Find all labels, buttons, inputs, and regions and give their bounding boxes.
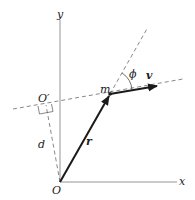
angular-momentum-diagram: y x O O′ r v m ϕ d <box>0 0 195 200</box>
right-angle-marker <box>38 104 53 114</box>
r-label: r <box>86 135 93 148</box>
x-axis-label: x <box>179 175 186 188</box>
position-vector-r <box>60 96 109 182</box>
r-extension-dashed <box>110 27 148 94</box>
origin-prime-label: O′ <box>38 92 50 105</box>
phi-label: ϕ <box>129 68 137 81</box>
mass-label: m <box>100 83 110 96</box>
perpendicular-distance-dashed <box>46 105 60 182</box>
velocity-vector-v <box>110 86 157 94</box>
v-label: v <box>146 69 153 82</box>
y-axis-label: y <box>56 8 64 21</box>
origin-label: O <box>52 184 61 197</box>
d-label: d <box>38 138 45 151</box>
